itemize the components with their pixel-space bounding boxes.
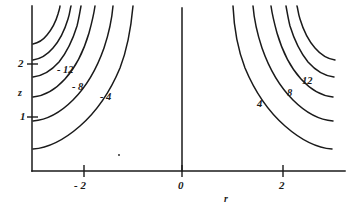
y-tick-label-2: 2 [18, 58, 24, 69]
contour-curve-pos-4 [233, 6, 332, 149]
contour-curve-neg-4 [33, 6, 133, 149]
contour-label-pos-4: 4 [257, 99, 262, 110]
y-tick-label-1: 1 [20, 111, 26, 122]
x-axis-title: r [224, 194, 228, 204]
contour-label-neg-4: - 4 [100, 92, 111, 103]
x-tick-label-neg2: - 2 [74, 180, 86, 191]
contour-curve-pos-20 [297, 6, 335, 60]
contour-label-pos-12: 12 [302, 76, 313, 87]
contour-curves-negative [33, 6, 133, 149]
stray-ink-marks [118, 154, 120, 156]
contour-curves-positive [233, 6, 335, 149]
y-axis-title: z [18, 88, 22, 98]
contour-label-pos-8: 8 [287, 88, 292, 99]
x-tick-label-2: 2 [279, 180, 285, 191]
plot-canvas [0, 0, 348, 209]
stray-dot [118, 154, 120, 156]
contour-label-neg-8: - 8 [72, 82, 83, 93]
contour-curve-neg-24 [33, 6, 60, 44]
contour-curve-neg-12 [33, 6, 95, 97]
tick-marks-group [27, 64, 283, 177]
contour-plot-figure: 2 1 z - 2 0 2 r - 12 - 8 - 4 4 8 12 [0, 0, 348, 209]
x-tick-label-0: 0 [178, 180, 184, 191]
contour-label-neg-12: - 12 [57, 65, 74, 76]
